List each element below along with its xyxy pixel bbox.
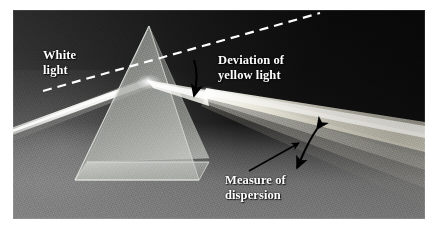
label-deviation-of-yellow-light: Deviation of yellow light [218,53,284,82]
label-white-light: White light [43,48,76,77]
prism-dispersion-figure: White light Deviation of yellow light Me… [0,0,436,229]
label-measure-of-dispersion: Measure of dispersion [225,173,286,202]
photograph-plate: White light Deviation of yellow light Me… [13,10,425,219]
film-grain [13,10,425,219]
